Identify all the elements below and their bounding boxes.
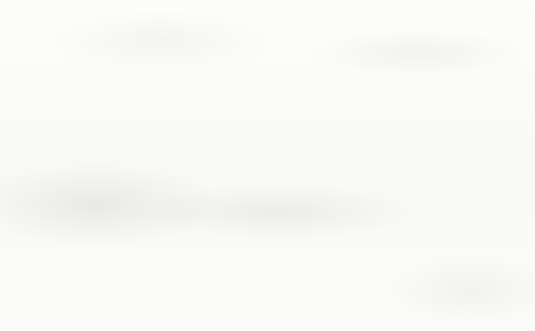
- x-tick-label: 1976: [123, 275, 142, 285]
- turnout-series-line: [89, 63, 481, 209]
- x-tick-label: 1992: [297, 275, 316, 285]
- x-tick-label: 1996: [341, 275, 360, 285]
- x-tick-label: 2004: [428, 275, 447, 285]
- y-axis-title: Turnout %: [16, 118, 28, 170]
- y-tick-label: 64: [40, 19, 50, 29]
- gridlines-group: [58, 24, 512, 265]
- turnout-line-chart: 485052545658606264 197219761980198419881…: [0, 0, 535, 331]
- x-axis-title: Elections: [264, 298, 307, 310]
- y-tick-label: 48: [40, 260, 50, 270]
- chart-canvas: 485052545658606264 197219761980198419881…: [0, 0, 535, 331]
- x-tick-label: 1988: [254, 275, 273, 285]
- x-tick-label: 1972: [80, 275, 99, 285]
- y-tick-label: 56: [40, 140, 50, 150]
- x-tick-label: 2000: [384, 275, 403, 285]
- x-tick-label: 1984: [210, 275, 229, 285]
- y-tick-label: 60: [40, 80, 50, 90]
- y-tick-label: 62: [40, 50, 50, 60]
- x-tick-labels-group: 1972197619801984198819921996200020042008: [80, 275, 491, 285]
- y-tick-labels-group: 485052545658606264: [40, 19, 50, 270]
- y-tick-label: 58: [40, 110, 50, 120]
- x-tick-label: 2008: [472, 275, 491, 285]
- y-tick-label: 52: [40, 200, 50, 210]
- x-tick-label: 1980: [167, 275, 186, 285]
- y-tick-label: 54: [40, 170, 50, 180]
- y-tick-label: 50: [40, 230, 50, 240]
